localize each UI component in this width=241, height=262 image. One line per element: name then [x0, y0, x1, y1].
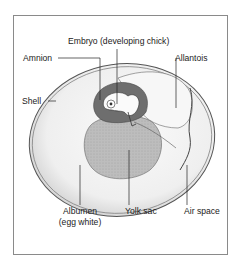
- label-embryo: Embryo (developing chick): [68, 36, 169, 46]
- label-albumen-note: (egg white): [50, 217, 110, 227]
- label-amnion: Amnion: [23, 53, 52, 63]
- yolk-sac: [84, 116, 161, 179]
- label-air-space: Air space: [184, 206, 220, 216]
- label-albumen: Albumen: [50, 206, 110, 216]
- label-shell: Shell: [22, 96, 41, 106]
- label-yolk-sac: Yolk sac: [125, 206, 157, 216]
- label-allantois: Allantois: [175, 53, 207, 63]
